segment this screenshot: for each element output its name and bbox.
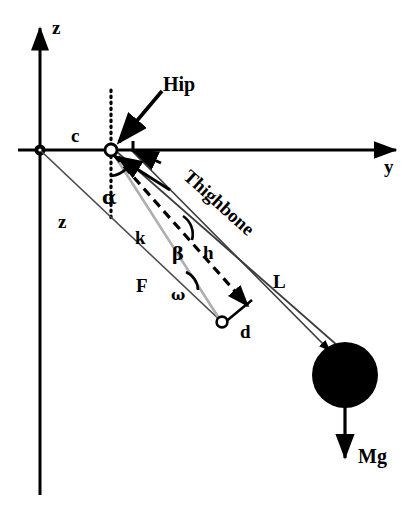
figure-canvas: z y Hip c z k F h L d α β ω Thighbone Mg [0, 0, 419, 505]
k-label: k [135, 228, 146, 247]
d-label: d [240, 322, 251, 341]
y-axis-label: y [384, 157, 394, 176]
c-label: c [71, 126, 79, 145]
L-length-line [117, 152, 338, 346]
hip-joint-marker [105, 144, 117, 156]
hip-callout-arrow [119, 91, 162, 142]
h-label: h [203, 243, 214, 262]
alpha-label: α [102, 188, 117, 207]
hip-label: Hip [163, 74, 195, 94]
L-label: L [273, 272, 286, 291]
mass-center-ball [312, 342, 378, 408]
z-segment-label: z [58, 212, 66, 231]
F-label: F [136, 276, 148, 295]
thighbone-line [132, 151, 330, 351]
beta-label: β [172, 245, 184, 263]
z-axis-label: z [52, 18, 60, 37]
omega-label: ω [171, 288, 185, 303]
muscle-insertion-marker [217, 317, 228, 328]
omega-arc [186, 272, 198, 290]
Mg-label: Mg [358, 446, 387, 466]
